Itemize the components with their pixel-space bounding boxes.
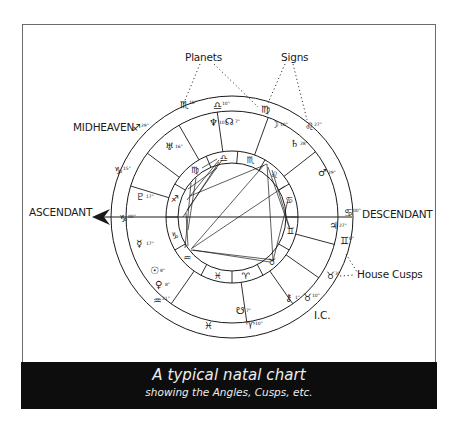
aspect-line <box>202 159 217 168</box>
cusp-degree: 00° <box>353 208 361 213</box>
planet-degree: 8° <box>160 268 165 273</box>
sign-divider <box>237 151 238 163</box>
midheaven-label: MIDHEAVEN <box>73 121 134 133</box>
house-cusp-line <box>179 125 199 160</box>
planet-degree: 16° <box>175 144 183 149</box>
cusp-sign-glyph: ♎ <box>213 100 222 111</box>
planet-degree: 8° <box>165 282 170 287</box>
planets-label: Planets <box>185 51 222 63</box>
cusp-degree: 00° <box>128 214 136 219</box>
jupiter-icon: ♃ <box>329 220 338 231</box>
caption-subtitle: showing the Angles, Cusps, etc. <box>21 385 437 400</box>
cusp-sign-glyph: ♉ <box>303 292 312 303</box>
inner-sign-glyph: ♉ <box>268 257 276 267</box>
sign-divider <box>175 184 185 190</box>
inner-sign-glyph: ♐ <box>171 194 179 204</box>
cusp-sign-glyph: ♋ <box>344 207 353 218</box>
caption-bar: A typical natal chart showing the Angles… <box>21 362 437 409</box>
house-cusps-label: House Cusps <box>357 268 423 280</box>
mars-icon: ♂ <box>318 167 327 178</box>
inner-sign-glyph: ♈ <box>241 271 250 281</box>
house-cusp-line <box>217 112 223 152</box>
house-cusp-line <box>296 234 335 244</box>
sign-divider <box>175 244 185 250</box>
cusp-sign-glyph: ♍ <box>261 104 270 115</box>
aspect-line <box>190 164 267 196</box>
signs-pointer-right <box>293 64 307 120</box>
sign-divider <box>257 265 263 276</box>
cusp-degree: 29° <box>141 123 149 128</box>
planet-degree: 7° <box>235 119 240 124</box>
cusp-degree: 3° <box>335 271 340 276</box>
north-node-icon: ☊ <box>225 116 234 127</box>
chiron-icon: ⚷ <box>285 292 292 303</box>
descendant-label: DESCENDANT <box>362 208 433 220</box>
sign-divider <box>201 265 207 276</box>
cusp-sign-glyph: ♉ <box>326 270 335 281</box>
sign-divider <box>279 244 289 250</box>
cusp-sign-glyph: ♊ <box>340 235 349 246</box>
inner-sign-glyph: ♏ <box>247 155 255 165</box>
aspect-line <box>193 250 270 262</box>
south-node-icon: ☋ <box>236 305 245 316</box>
house-cusp-line <box>286 255 319 278</box>
mercury-icon: ☿ <box>136 238 142 249</box>
cusp-degree: 0° <box>349 236 354 241</box>
cusp-degree: 21° <box>162 296 170 301</box>
inner-sign-glyph: ♒ <box>183 253 191 263</box>
inner-sign-glyph: ♍ <box>191 165 199 175</box>
caption-title: A typical natal chart <box>21 366 437 385</box>
planet-degree: 17° <box>146 194 154 199</box>
cusp-degree: 10° <box>189 100 197 105</box>
inner-sign-glyph: ♑ <box>171 231 179 241</box>
ascendant-label: ASCENDANT <box>29 206 92 218</box>
cusp-degree: 27° <box>314 122 322 127</box>
signs-pointer-left <box>268 64 285 103</box>
signs-label: Signs <box>281 51 308 63</box>
planet-degree: 10° <box>280 122 288 127</box>
sign-divider <box>206 156 211 167</box>
moon-icon: ☽ <box>270 119 279 130</box>
house-cusp-line <box>284 152 316 177</box>
planet-degree: 1° <box>295 295 300 300</box>
inner-sign-glyph: ♊ <box>286 226 294 236</box>
cusp-sign-glyph: ♒ <box>153 295 162 306</box>
planet-degree: 17° <box>146 241 154 246</box>
venus-icon: ♀ <box>155 279 162 290</box>
house-cusp-line <box>147 153 179 177</box>
house-cusp-line <box>171 271 194 304</box>
cusp-degree: 15° <box>123 166 131 171</box>
cusp-sign-glyph: ♌ <box>305 121 314 132</box>
cusp-sign-glyph: ♈ <box>246 320 255 331</box>
pluto-icon: ♇ <box>136 191 145 202</box>
planet-degree: 7° <box>246 308 251 313</box>
inner-sign-glyph: ♌ <box>270 170 278 180</box>
house-cusp-line <box>255 117 269 155</box>
aspect-line <box>192 165 264 248</box>
inner-sign-glyph: ♋ <box>285 195 293 205</box>
cusp-degree: 10° <box>312 293 320 298</box>
cusp-sign-glyph: ♑ <box>119 213 128 224</box>
cusp-sign-glyph: ♑ <box>114 165 123 176</box>
planet-degree: 27° <box>339 223 347 228</box>
cusp-degree: 10° <box>222 101 230 106</box>
house-cusp-line <box>241 282 247 322</box>
saturn-icon: ♄ <box>290 138 299 149</box>
inner-sign-glyph: ♓ <box>213 271 221 281</box>
house-cusps-pointer-lower <box>340 275 354 276</box>
ic-label: I.C. <box>314 309 330 321</box>
house-cusps-pointer-upper <box>346 254 357 272</box>
cusp-sign-glyph: ♏ <box>180 99 189 110</box>
neptune-icon: ♆ <box>209 117 218 128</box>
uranus-icon: ♅ <box>165 141 174 152</box>
planet-degree: 29° <box>328 170 336 175</box>
inner-sign-glyph: ♎ <box>220 153 228 163</box>
cusp-degree: 10° <box>255 321 263 326</box>
sun-icon: ☉ <box>150 265 159 276</box>
intercepted-sign-glyph: ♓ <box>204 320 213 331</box>
planet-degree: 28° <box>300 141 308 146</box>
